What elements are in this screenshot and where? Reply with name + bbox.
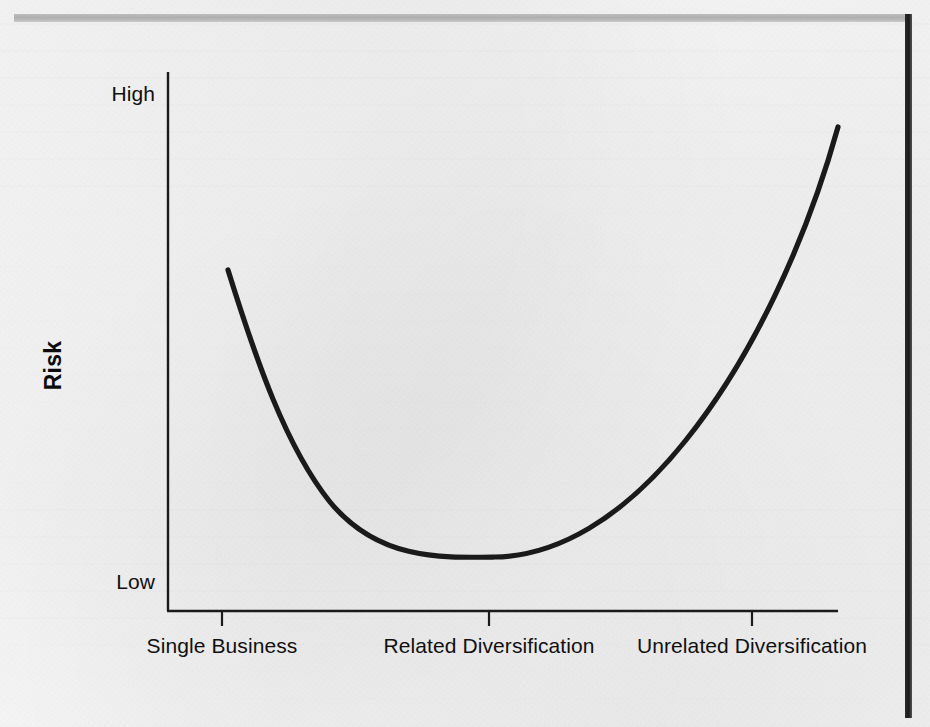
figure-canvas: High Low Risk Single Business Related Di… (0, 0, 930, 727)
chart-svg (0, 0, 930, 727)
y-axis-tick-label-low: Low (0, 570, 155, 594)
risk-diversification-chart: High Low Risk Single Business Related Di… (0, 0, 930, 727)
y-axis-title: Risk (40, 266, 67, 466)
x-axis-tick-label-single-business: Single Business (122, 634, 322, 658)
x-axis-tick-label-related-diversification: Related Diversification (364, 634, 614, 658)
x-axis-tick-label-unrelated-diversification: Unrelated Diversification (620, 634, 884, 658)
risk-curve (228, 127, 838, 557)
y-axis-tick-label-high: High (0, 82, 155, 106)
